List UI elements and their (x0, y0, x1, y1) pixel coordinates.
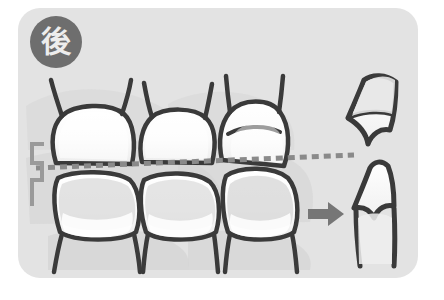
profile-lower-tooth (354, 162, 395, 266)
profile-view (348, 76, 396, 266)
stage-badge: 後 (30, 16, 82, 68)
illustration-card: 後 (18, 8, 418, 278)
stage-badge-label: 後 (41, 27, 71, 57)
illustration-stage: 後 (0, 0, 444, 300)
profile-upper-tooth (348, 76, 396, 144)
upper-tooth-3 (220, 76, 288, 166)
direction-arrow-icon (308, 202, 344, 226)
